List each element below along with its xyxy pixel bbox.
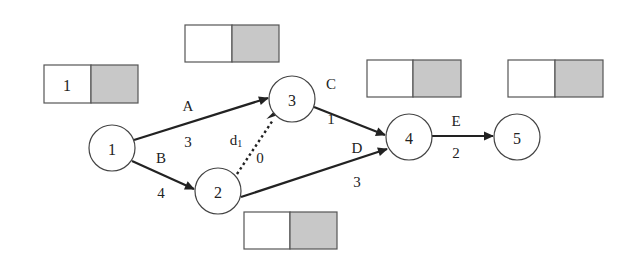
time-box-right-cell [413,60,461,97]
edge-d1-name: d1 [230,132,243,149]
edge-d1-duration: 0 [256,150,264,166]
svg-text:3: 3 [288,92,296,109]
time-box-right-cell [91,65,138,103]
time-box-right-cell [232,25,279,62]
svg-text:4: 4 [405,130,413,147]
time-box-left-value: 1 [63,77,71,94]
edge-E-name: E [451,113,460,129]
network-diagram: 1 1 2 3 4 5 A 3 B [0,0,640,266]
edge-B-name: B [156,150,166,166]
time-box-node-3 [185,25,279,62]
time-box-node-5 [508,60,603,97]
svg-text:1: 1 [108,141,116,158]
edge-C-duration: 1 [327,111,335,127]
time-box-left-cell [244,212,290,249]
svg-text:2: 2 [214,184,222,201]
time-box-node-1: 1 [44,65,138,103]
edge-A-name: A [183,98,194,114]
time-box-node-2 [244,212,337,249]
time-box-left-cell [185,25,232,62]
node-1: 1 [89,125,135,171]
node-3: 3 [269,76,315,122]
node-5: 5 [494,114,540,160]
time-box-right-cell [555,60,603,97]
edge-C [314,107,385,135]
time-box-left-cell [508,60,555,97]
edge-A [134,98,268,140]
node-2: 2 [195,168,241,214]
time-box-left-cell [367,60,413,97]
edge-B-duration: 4 [157,185,165,201]
node-4: 4 [386,114,432,160]
edge-d1-dummy [237,120,273,174]
time-box-node-4 [367,60,461,97]
edge-D-name: D [352,140,363,156]
edge-D-duration: 3 [353,174,361,190]
svg-text:5: 5 [513,130,521,147]
time-box-right-cell [290,212,337,249]
edge-A-duration: 3 [184,134,192,150]
edge-E-duration: 2 [452,145,460,161]
edge-C-name: C [326,76,336,92]
